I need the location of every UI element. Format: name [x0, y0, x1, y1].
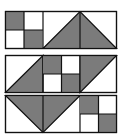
checker-square-gray	[43, 56, 62, 75]
panel-2	[6, 56, 117, 93]
pattern-diagram	[0, 0, 126, 139]
checker-square-gray	[99, 114, 117, 133]
checker-square-gray	[80, 96, 99, 115]
checker-square-gray	[24, 30, 43, 49]
checker-square-gray	[6, 12, 25, 31]
panel-1	[6, 12, 117, 49]
panel-3	[6, 96, 117, 133]
checker-square-gray	[62, 74, 81, 93]
